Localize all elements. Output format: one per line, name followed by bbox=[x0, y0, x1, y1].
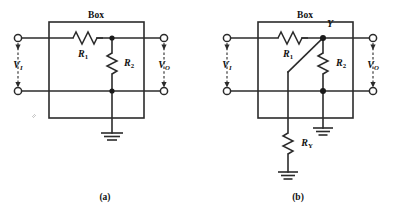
panel-b-node-dot-bottom bbox=[320, 88, 326, 94]
panel-b-r2-zigzag bbox=[318, 53, 328, 74]
panel-b-group: Box R1 R2 RY Y VI VO (b) bbox=[222, 10, 379, 203]
panel-a-group: Box R1 R2 VI VO (a) bbox=[13, 10, 170, 203]
panel-a-r2-label: R2 bbox=[123, 57, 135, 69]
panel-a-output-voltage-label-sub: O bbox=[165, 64, 170, 71]
panel-a-output-voltage-label: VO bbox=[158, 59, 170, 71]
panel-b-node-label-y: Y bbox=[327, 18, 334, 29]
panel-a-input-voltage-label: VI bbox=[13, 59, 23, 71]
panel-a-caption: (a) bbox=[99, 192, 110, 203]
panel-b-input-terminal-bottom[interactable] bbox=[223, 87, 230, 94]
panel-b-r1-label: R1 bbox=[282, 48, 294, 60]
panel-a-node-dot-bottom bbox=[109, 88, 114, 93]
panel-a-r2-label-sub: 2 bbox=[131, 62, 135, 69]
panel-b-r1-label-sub: 1 bbox=[290, 53, 294, 60]
panel-b-output-terminal-bottom[interactable] bbox=[369, 87, 376, 94]
circuit-diagram-canvas: Box R1 R2 VI VO (a) bbox=[0, 0, 405, 215]
panel-b-r2-label-sub: 2 bbox=[343, 62, 347, 69]
panel-b-input-voltage-label-sub: I bbox=[228, 64, 232, 71]
panel-a-input-voltage-arrow-head-up bbox=[15, 45, 20, 51]
panel-a-output-voltage-arrow-head-down bbox=[161, 82, 166, 88]
panel-b-node-dot-y bbox=[320, 35, 326, 41]
panel-a-output-terminal-top[interactable] bbox=[160, 34, 167, 41]
panel-a-input-voltage-arrow-head-down bbox=[15, 82, 20, 88]
panel-b-ry-label-sub: Y bbox=[308, 142, 313, 149]
panel-a-box-label: Box bbox=[88, 10, 104, 20]
panel-a-print-smudge bbox=[32, 114, 36, 118]
panel-b-input-voltage-label: VI bbox=[222, 59, 232, 71]
panel-a-r2-zigzag bbox=[107, 53, 117, 74]
panel-a-output-terminal-bottom[interactable] bbox=[160, 87, 167, 94]
panel-b-ry-label: RY bbox=[300, 137, 313, 149]
figure-root: Box R1 R2 VI VO (a) bbox=[0, 0, 405, 215]
panel-b-input-terminal-top[interactable] bbox=[223, 34, 230, 41]
panel-b-output-voltage-arrow-head-down bbox=[370, 82, 375, 88]
panel-b-output-voltage-arrow-head-up bbox=[370, 45, 375, 51]
panel-a-output-voltage-arrow-head-up bbox=[161, 45, 166, 51]
panel-b-input-voltage-arrow-head-down bbox=[224, 82, 229, 88]
panel-b-output-voltage-label-sub: O bbox=[374, 64, 379, 71]
panel-b-output-terminal-top[interactable] bbox=[369, 34, 376, 41]
panel-a-input-terminal-top[interactable] bbox=[14, 34, 21, 41]
panel-a-input-terminal-bottom[interactable] bbox=[14, 87, 21, 94]
panel-a-box-outline bbox=[49, 22, 144, 118]
panel-a-r1-label-sub: 1 bbox=[85, 53, 89, 60]
panel-b-switch-blade[interactable] bbox=[288, 38, 323, 72]
panel-a-node-dot-top bbox=[109, 35, 114, 40]
panel-a-input-voltage-label-sub: I bbox=[19, 64, 23, 71]
panel-b-caption: (b) bbox=[292, 192, 304, 203]
panel-b-box-outline bbox=[258, 22, 353, 118]
panel-b-ry-zigzag bbox=[283, 133, 293, 154]
panel-a-r1-label: R1 bbox=[77, 48, 89, 60]
panel-b-box-label: Box bbox=[297, 10, 313, 20]
panel-b-output-voltage-label: VO bbox=[367, 59, 379, 71]
panel-b-input-voltage-arrow-head-up bbox=[224, 45, 229, 51]
panel-b-r2-label: R2 bbox=[335, 57, 347, 69]
